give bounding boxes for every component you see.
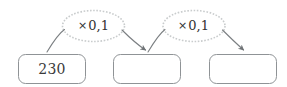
operation-bubble-1[interactable] (63, 11, 125, 42)
value-box-1[interactable] (19, 55, 86, 84)
value-box-2[interactable] (114, 55, 181, 84)
arrow-box2-to-op2 (148, 30, 165, 53)
arrow-op1-to-box2 (122, 30, 146, 50)
arrow-op2-to-box3 (223, 30, 244, 50)
value-box-3[interactable] (210, 55, 277, 84)
arrow-box1-to-op1 (47, 30, 65, 53)
diagram-canvas (0, 0, 287, 87)
operation-bubble-2[interactable] (163, 11, 225, 42)
function-machine-diagram: 230 ×0,1 ×0,1 (0, 0, 287, 87)
